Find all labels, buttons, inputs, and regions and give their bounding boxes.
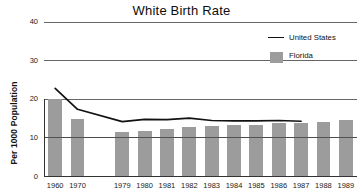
bar xyxy=(160,129,174,176)
plot-area xyxy=(0,0,363,194)
y-tick-label: 0 xyxy=(14,172,38,181)
y-tick-label: 40 xyxy=(14,17,38,26)
chart-legend: United StatesFlorida xyxy=(268,31,363,64)
y-tick-label: 20 xyxy=(14,94,38,103)
bar xyxy=(115,132,129,176)
legend-item: Florida xyxy=(268,49,363,64)
bar xyxy=(339,120,353,176)
bar xyxy=(317,122,331,176)
legend-label: United States xyxy=(289,33,336,42)
bar xyxy=(71,119,85,177)
x-tick-label: 1989 xyxy=(330,181,362,190)
legend-box-swatch-icon xyxy=(270,52,283,63)
legend-line-swatch-icon xyxy=(268,37,284,38)
bar xyxy=(249,125,263,177)
bar xyxy=(182,127,196,176)
y-tick-label: 30 xyxy=(14,56,38,65)
bar xyxy=(272,123,286,177)
bar xyxy=(294,123,308,177)
white-birth-rate-chart: White Birth Rate Per 1000 Population 010… xyxy=(0,0,363,194)
line-series-united-states xyxy=(55,88,301,121)
legend-item: United States xyxy=(268,31,363,46)
y-tick-label: 10 xyxy=(14,133,38,142)
legend-label: Florida xyxy=(289,51,313,60)
bar xyxy=(227,125,241,177)
x-tick-label: 1970 xyxy=(61,181,93,190)
bar xyxy=(205,126,219,176)
